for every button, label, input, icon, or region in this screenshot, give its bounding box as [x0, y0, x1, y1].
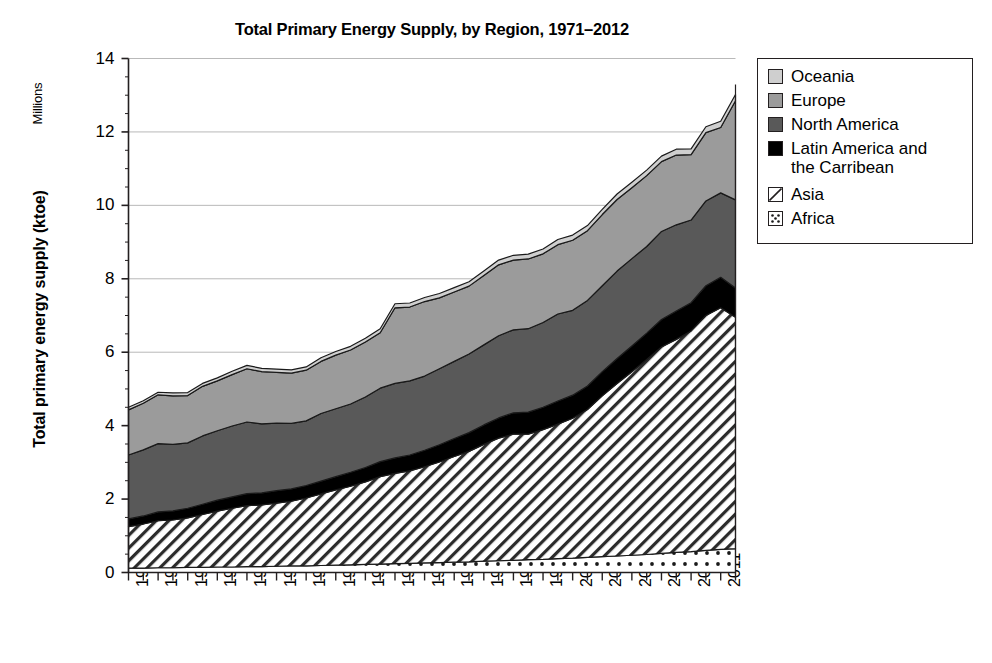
legend-label: Asia: [791, 185, 824, 204]
legend-swatch-icon: [768, 211, 783, 226]
legend-swatch-icon: [768, 117, 783, 132]
legend-swatch-icon: [768, 93, 783, 108]
legend-item-latin-america-and[interactable]: Latin America and the Carribean: [768, 139, 927, 177]
legend-swatch-icon: [768, 69, 783, 84]
legend-label: Europe: [791, 91, 846, 110]
legend-swatch-icon: [768, 187, 783, 202]
legend-item-asia[interactable]: Asia: [768, 185, 824, 204]
legend-item-north-america[interactable]: North America: [768, 115, 899, 134]
stacked-areas: [129, 94, 736, 572]
legend-label: Oceania: [791, 67, 854, 86]
legend-item-europe[interactable]: Europe: [768, 91, 846, 110]
legend-label: North America: [791, 115, 899, 134]
legend-item-oceania[interactable]: Oceania: [768, 67, 854, 86]
legend-item-africa[interactable]: Africa: [768, 209, 834, 228]
legend-label: Latin America and the Carribean: [791, 139, 927, 177]
legend-swatch-icon: [768, 141, 783, 156]
legend-label: Africa: [791, 209, 834, 228]
legend: OceaniaEuropeNorth AmericaLatin America …: [757, 58, 973, 244]
chart-figure: Total Primary Energy Supply, by Region, …: [0, 0, 992, 663]
